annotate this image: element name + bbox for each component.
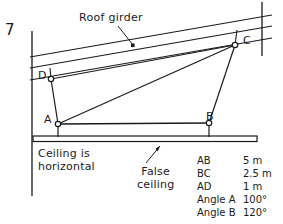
- measurement-name: AB: [197, 154, 243, 167]
- point-label-a: A: [44, 114, 52, 127]
- ceiling-note-line-2: horizontal: [38, 160, 95, 173]
- measurement-value: 5 m: [243, 154, 262, 167]
- measurement-value: 2.5 m: [243, 167, 272, 180]
- ceiling-horizontal-note: Ceiling ishorizontal: [38, 148, 95, 174]
- roof-girder-label: Roof girder: [79, 12, 143, 25]
- measurement-row: Angle B120°: [197, 206, 272, 219]
- measurement-value: 100°: [243, 193, 267, 206]
- figure-number: 7: [5, 22, 15, 40]
- measurements-list: AB5 mBC2.5 mAD1 mAngle A100°Angle B120°: [197, 154, 272, 219]
- joint-node-c: [232, 42, 237, 47]
- point-label-d: D: [38, 70, 46, 83]
- point-label-c: C: [243, 35, 251, 48]
- false-ceiling-label: Falseceiling: [137, 166, 174, 192]
- measurement-value: 1 m: [243, 180, 262, 193]
- measurement-row: Angle A100°: [197, 193, 272, 206]
- false-ceiling-line-1: False: [141, 165, 170, 178]
- joint-node-a: [55, 121, 60, 126]
- roof-girder-leader-dot: [131, 44, 135, 48]
- measurement-row: AB5 m: [197, 154, 272, 167]
- measurement-name: BC: [197, 167, 243, 180]
- false-ceiling-line-2: ceiling: [137, 178, 174, 191]
- measurement-row: BC2.5 m: [197, 167, 272, 180]
- measurement-value: 120°: [243, 206, 267, 219]
- measurement-row: AD1 m: [197, 180, 272, 193]
- measurement-name: AD: [197, 180, 243, 193]
- measurement-name: Angle A: [197, 193, 243, 206]
- joint-node-d: [48, 76, 53, 81]
- member-a-b: [58, 123, 209, 124]
- false-ceiling-bar: [33, 136, 257, 142]
- measurement-name: Angle B: [197, 206, 243, 219]
- member-a-d: [51, 79, 58, 124]
- figure-panel: 7 Roof girder A B C D Ceiling ishorizont…: [0, 0, 283, 224]
- point-label-b: B: [206, 111, 214, 124]
- roof-girder-leader-line: [118, 26, 133, 45]
- ceiling-note-line-1: Ceiling is: [38, 147, 90, 160]
- member-d-c: [51, 45, 235, 79]
